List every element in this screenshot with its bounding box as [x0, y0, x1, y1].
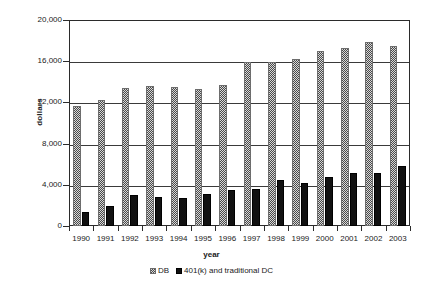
x-tick-mark-origin: [69, 226, 70, 231]
y-tick-label-16000: 16,000: [16, 57, 62, 65]
solid-square-icon: [176, 268, 182, 274]
y-tick-label-0: 0: [16, 222, 62, 230]
bar-dc-1992: [130, 195, 138, 226]
bar-group-2001: [341, 20, 357, 226]
bar-db-1992: [122, 88, 130, 226]
x-tick-mark-2002: [386, 226, 387, 231]
x-tick-mark-1997: [264, 226, 265, 231]
bar-dc-2000: [325, 177, 333, 226]
bar-group-2000: [317, 20, 333, 226]
bar-db-2001: [341, 48, 349, 226]
x-tick-mark-2003: [410, 226, 411, 231]
chart-legend: DB401(k) and traditional DC: [0, 266, 423, 275]
bar-db-1998: [268, 62, 276, 226]
legend-label: 401(k) and traditional DC: [184, 266, 273, 275]
x-tick-mark-1999: [313, 226, 314, 231]
bar-dc-1995: [203, 194, 211, 226]
bar-group-1994: [171, 20, 187, 226]
bars-layer: [69, 20, 410, 226]
x-tick-mark-1991: [118, 226, 119, 231]
bar-chart: dollars 04,0008,00012,00016,00020,000 19…: [0, 0, 423, 283]
bar-dc-1990: [82, 212, 90, 226]
bar-dc-2003: [398, 166, 406, 226]
legend-entry-db: DB: [150, 266, 169, 275]
x-tick-label-2003: 2003: [381, 234, 415, 243]
bar-group-1997: [244, 20, 260, 226]
bar-dc-2001: [350, 173, 358, 226]
y-axis-title: dollars: [35, 82, 44, 142]
bar-dc-2002: [374, 173, 382, 226]
y-tick-label-12000: 12,000: [16, 98, 62, 106]
y-tick-label-4000: 4,000: [16, 181, 62, 189]
bar-group-1999: [292, 20, 308, 226]
y-tick-label-20000: 20,000: [16, 16, 62, 24]
hatched-square-icon: [150, 268, 156, 274]
x-tick-mark-1998: [288, 226, 289, 231]
x-tick-mark-2001: [361, 226, 362, 231]
bar-dc-1998: [277, 180, 285, 226]
bar-db-1990: [73, 106, 81, 227]
bar-db-1999: [292, 59, 300, 226]
bar-group-1991: [98, 20, 114, 226]
bar-db-1996: [219, 85, 227, 226]
bar-group-1992: [122, 20, 138, 226]
x-tick-mark-1996: [240, 226, 241, 231]
bar-group-1990: [73, 20, 89, 226]
bar-db-2003: [390, 46, 398, 226]
bar-dc-1996: [228, 190, 236, 226]
bar-dc-1994: [179, 198, 187, 226]
x-tick-mark-1990: [93, 226, 94, 231]
bar-db-1997: [244, 62, 252, 226]
bar-db-2000: [317, 51, 325, 226]
x-tick-mark-2000: [337, 226, 338, 231]
bar-dc-1997: [252, 189, 260, 226]
bar-group-1996: [219, 20, 235, 226]
bar-dc-1999: [301, 183, 309, 226]
bar-db-2002: [365, 42, 373, 226]
bar-db-1994: [171, 87, 179, 226]
bar-group-1995: [195, 20, 211, 226]
x-tick-mark-1994: [191, 226, 192, 231]
x-axis-title: year: [0, 250, 423, 259]
bar-db-1995: [195, 89, 203, 226]
bar-group-1998: [268, 20, 284, 226]
bar-db-1991: [98, 100, 106, 226]
x-tick-mark-1995: [215, 226, 216, 231]
bar-dc-1991: [106, 206, 114, 226]
legend-entry-dc: 401(k) and traditional DC: [176, 266, 273, 275]
bar-dc-1993: [155, 197, 163, 226]
bar-group-2003: [390, 20, 406, 226]
x-tick-mark-1993: [166, 226, 167, 231]
bar-group-1993: [146, 20, 162, 226]
bar-db-1993: [146, 86, 154, 226]
bar-group-2002: [365, 20, 381, 226]
y-tick-label-8000: 8,000: [16, 140, 62, 148]
x-tick-mark-1992: [142, 226, 143, 231]
legend-label: DB: [158, 266, 169, 275]
